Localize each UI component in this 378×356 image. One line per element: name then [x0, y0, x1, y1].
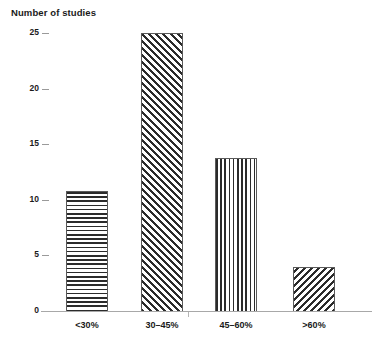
y-axis-tick-mark	[42, 200, 49, 201]
y-axis-tick-mark	[42, 255, 49, 256]
bar-45-60[interactable]	[215, 158, 257, 312]
y-axis-tick-label: 20	[30, 83, 39, 93]
bar-gt-60[interactable]	[293, 267, 335, 312]
x-axis-label-30-45: 30–45%	[145, 320, 178, 330]
y-axis-tick-label: 5	[34, 249, 39, 259]
y-axis-tick-label: 10	[30, 194, 39, 204]
y-axis-tick-label: 25	[30, 27, 39, 37]
y-axis-tick-label: 0	[34, 305, 39, 315]
y-axis-tick-label: 15	[30, 138, 39, 148]
bar-lt-30[interactable]	[66, 191, 108, 312]
y-axis-tick-mark	[42, 89, 49, 90]
plot-area: 25 20 15 10 5 0 <30%	[0, 0, 378, 356]
y-axis-tick-mark	[42, 144, 49, 145]
x-axis-minor-tick	[188, 312, 189, 317]
y-axis-tick-mark	[42, 33, 49, 34]
x-axis-label-gt-60: >60%	[302, 320, 325, 330]
bar-30-45[interactable]	[141, 33, 183, 312]
x-axis-label-lt-30: <30%	[75, 320, 98, 330]
x-axis-label-45-60: 45–60%	[219, 320, 252, 330]
bar-chart: Number of studies 25 20 15 10 5 0	[0, 0, 378, 356]
x-axis-line	[41, 311, 372, 312]
